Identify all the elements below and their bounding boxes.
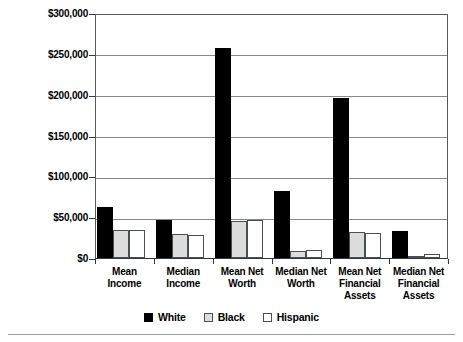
bar-hispanic-median-income bbox=[188, 235, 204, 258]
bar-white-median-net-financial-assets bbox=[392, 231, 408, 258]
legend-label: White bbox=[158, 312, 186, 323]
chart-legend: WhiteBlackHispanic bbox=[0, 312, 463, 323]
y-axis: $0$50,000$100,000$150,000$200,000$250,00… bbox=[0, 0, 88, 342]
y-axis-tick-label: $300,000 bbox=[2, 9, 88, 19]
x-axis-tick-mark bbox=[448, 259, 449, 264]
bar-group bbox=[155, 15, 214, 258]
plot-area bbox=[95, 14, 448, 259]
legend-swatch-icon bbox=[204, 313, 213, 322]
x-axis-label-line: Median Net bbox=[272, 266, 331, 278]
x-axis-label-line: Assets bbox=[330, 290, 389, 302]
bar-group bbox=[214, 15, 273, 258]
x-axis-tick-mark bbox=[272, 259, 273, 264]
x-axis-tick-mark bbox=[95, 259, 96, 264]
x-axis-label-line: Median bbox=[154, 266, 213, 278]
y-axis-tick-mark bbox=[89, 259, 95, 260]
y-axis-tick-label: $200,000 bbox=[2, 91, 88, 101]
x-axis-tick-mark bbox=[330, 259, 331, 264]
x-axis-label-line: Mean Net bbox=[213, 266, 272, 278]
legend-label: Hispanic bbox=[277, 312, 319, 323]
y-axis-tick-label: $0 bbox=[2, 254, 88, 264]
legend-item-black: Black bbox=[204, 312, 245, 323]
x-axis-category-label: MedianIncome bbox=[154, 266, 213, 290]
bar-group bbox=[96, 15, 155, 258]
legend-swatch-icon bbox=[144, 313, 153, 322]
bar-group bbox=[331, 15, 390, 258]
bar-white-mean-income bbox=[97, 207, 113, 258]
x-axis-category-label: MeanIncome bbox=[95, 266, 154, 290]
x-axis-label-line: Mean bbox=[95, 266, 154, 278]
bar-black-mean-net-worth bbox=[231, 221, 247, 258]
x-axis-label-line: Financial bbox=[330, 278, 389, 290]
y-axis-tick-mark bbox=[89, 218, 95, 219]
x-axis-label-line: Worth bbox=[213, 278, 272, 290]
y-axis-tick-mark bbox=[89, 14, 95, 15]
bar-hispanic-median-net-worth bbox=[306, 250, 322, 258]
bar-group bbox=[390, 15, 449, 258]
bar-hispanic-mean-income bbox=[129, 230, 145, 258]
bar-group bbox=[273, 15, 332, 258]
legend-label: Black bbox=[218, 312, 245, 323]
bar-black-median-income bbox=[172, 234, 188, 258]
bar-hispanic-median-net-financial-assets bbox=[424, 254, 440, 258]
y-axis-tick-mark bbox=[89, 137, 95, 138]
bar-white-median-income bbox=[156, 220, 172, 258]
y-axis-tick-label: $100,000 bbox=[2, 172, 88, 182]
bar-hispanic-mean-net-worth bbox=[247, 220, 263, 258]
x-axis-tick-mark bbox=[213, 259, 214, 264]
x-axis-tick-mark bbox=[154, 259, 155, 264]
x-axis-category-label: Median NetWorth bbox=[272, 266, 331, 290]
legend-swatch-icon bbox=[263, 313, 272, 322]
legend-item-hispanic: Hispanic bbox=[263, 312, 319, 323]
bar-black-median-net-financial-assets bbox=[408, 256, 424, 258]
y-axis-tick-mark bbox=[89, 177, 95, 178]
x-axis-tick-mark bbox=[389, 259, 390, 264]
x-axis-category-label: Mean NetFinancialAssets bbox=[330, 266, 389, 302]
y-axis-tick-mark bbox=[89, 55, 95, 56]
bar-white-mean-net-worth bbox=[215, 48, 231, 258]
x-axis-label-line: Financial bbox=[389, 278, 448, 290]
bar-black-mean-income bbox=[113, 230, 129, 258]
x-axis-category-label: Mean NetWorth bbox=[213, 266, 272, 290]
bar-black-median-net-worth bbox=[290, 251, 306, 258]
x-axis-label-line: Mean Net bbox=[330, 266, 389, 278]
x-axis-label-line: Median Net bbox=[389, 266, 448, 278]
x-axis-category-label: Median NetFinancialAssets bbox=[389, 266, 448, 302]
bottom-divider bbox=[8, 334, 455, 335]
bar-white-median-net-worth bbox=[274, 191, 290, 258]
x-axis-label-line: Income bbox=[154, 278, 213, 290]
bars-layer bbox=[96, 15, 447, 258]
bar-white-mean-net-financial-assets bbox=[333, 98, 349, 258]
x-axis-label-line: Income bbox=[95, 278, 154, 290]
y-axis-tick-label: $50,000 bbox=[2, 213, 88, 223]
bar-black-mean-net-financial-assets bbox=[349, 232, 365, 258]
x-axis-label-line: Assets bbox=[389, 290, 448, 302]
bar-chart-figure: $0$50,000$100,000$150,000$200,000$250,00… bbox=[0, 0, 463, 342]
y-axis-tick-mark bbox=[89, 96, 95, 97]
bar-hispanic-mean-net-financial-assets bbox=[365, 233, 381, 258]
y-axis-tick-label: $250,000 bbox=[2, 50, 88, 60]
x-axis-label-line: Worth bbox=[272, 278, 331, 290]
y-axis-tick-label: $150,000 bbox=[2, 132, 88, 142]
legend-item-white: White bbox=[144, 312, 186, 323]
